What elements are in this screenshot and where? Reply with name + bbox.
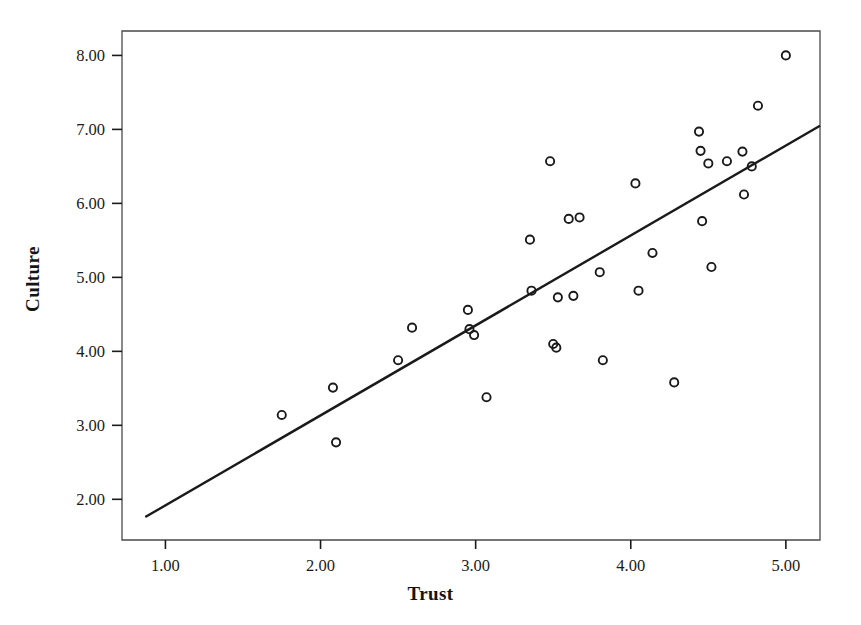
x-tick-label: 2.00 [306, 556, 335, 575]
y-tick-label: 6.00 [76, 194, 105, 213]
data-point [738, 147, 746, 155]
x-tick-label: 4.00 [616, 556, 645, 575]
data-point [394, 356, 402, 364]
data-point [754, 102, 762, 110]
data-point [596, 268, 604, 276]
axis-tick-labels: 1.002.003.004.005.002.003.004.005.006.00… [76, 46, 800, 575]
data-point [482, 393, 490, 401]
data-point [670, 378, 678, 386]
data-point [329, 383, 337, 391]
data-point [569, 292, 577, 300]
data-point [696, 147, 704, 155]
regression-line [145, 126, 820, 517]
data-point [723, 157, 731, 165]
data-point [695, 128, 703, 136]
data-point [740, 190, 748, 198]
data-point [704, 159, 712, 167]
data-point [575, 213, 583, 221]
data-point [554, 293, 562, 301]
plot-canvas: 1.002.003.004.005.002.003.004.005.006.00… [0, 0, 861, 625]
x-tick-label: 5.00 [771, 556, 800, 575]
y-axis-title: Culture [22, 209, 44, 349]
data-point [599, 356, 607, 364]
data-points [278, 51, 790, 446]
data-point [648, 249, 656, 257]
data-point [565, 215, 573, 223]
data-point [698, 217, 706, 225]
data-point [782, 51, 790, 59]
data-point [634, 287, 642, 295]
data-point [464, 306, 472, 314]
data-point [332, 438, 340, 446]
x-tick-label: 1.00 [151, 556, 180, 575]
data-point [408, 324, 416, 332]
x-tick-label: 3.00 [461, 556, 490, 575]
y-tick-label: 7.00 [76, 120, 105, 139]
data-point [631, 179, 639, 187]
y-tick-label: 8.00 [76, 46, 105, 65]
scatter-plot-figure: 1.002.003.004.005.002.003.004.005.006.00… [0, 0, 861, 625]
x-axis-title: Trust [0, 583, 861, 605]
y-tick-label: 3.00 [76, 416, 105, 435]
data-point [526, 236, 534, 244]
data-point [546, 157, 554, 165]
plot-frame [122, 31, 820, 540]
data-point [707, 263, 715, 271]
data-point [470, 331, 478, 339]
y-tick-label: 5.00 [76, 268, 105, 287]
y-tick-label: 2.00 [76, 490, 105, 509]
axis-ticks [112, 55, 786, 549]
y-tick-label: 4.00 [76, 342, 105, 361]
data-point [278, 411, 286, 419]
